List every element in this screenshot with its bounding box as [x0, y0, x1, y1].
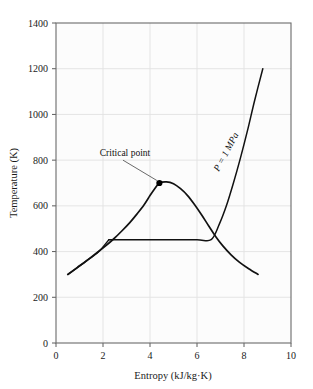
y-tick-label: 400 — [33, 246, 48, 257]
x-tick-label: 10 — [286, 350, 296, 361]
figure-container: 0246810 0200400600800100012001400 Critic… — [0, 0, 313, 389]
temperature-entropy-chart: 0246810 0200400600800100012001400 Critic… — [0, 0, 313, 389]
x-tick-label: 8 — [242, 350, 247, 361]
y-tick-label: 1000 — [28, 109, 48, 120]
x-tick-label: 2 — [101, 350, 106, 361]
y-tick-label: 1200 — [28, 63, 48, 74]
critical-point-label: Critical point — [100, 148, 151, 158]
x-tick-label: 6 — [195, 350, 200, 361]
x-tick-label: 4 — [148, 350, 153, 361]
y-tick-label: 600 — [33, 200, 48, 211]
y-axis-title: Temperature (K) — [8, 147, 20, 218]
x-axis-title: Entropy (kJ/kg·K) — [134, 370, 212, 382]
critical-point-marker — [156, 180, 162, 186]
x-tick-label: 0 — [54, 350, 59, 361]
y-tick-label: 1400 — [28, 18, 48, 29]
y-tick-label: 200 — [33, 292, 48, 303]
y-tick-label: 800 — [33, 155, 48, 166]
y-tick-label: 0 — [43, 338, 48, 349]
